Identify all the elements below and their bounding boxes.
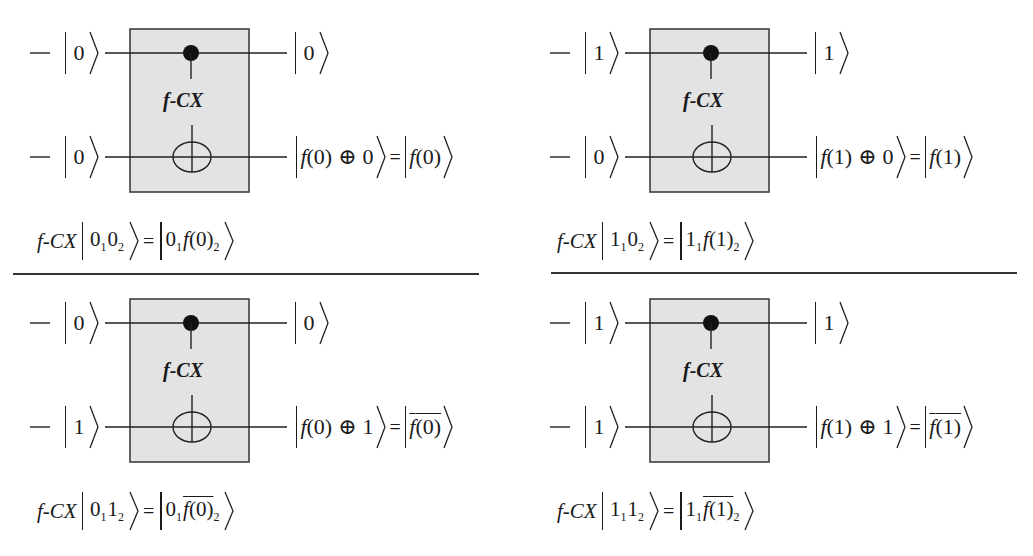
ket-angle-icon: [89, 405, 99, 449]
xor-icon: ⊕: [858, 144, 876, 169]
ket-angle-icon: [129, 491, 139, 531]
ket-bar: [405, 406, 406, 448]
input-bottom-value: 0: [593, 146, 604, 168]
ket-bar: [65, 302, 66, 344]
negated-value: f(1): [929, 414, 961, 439]
function-arg: (0): [307, 144, 333, 169]
gate-label: f-CX: [163, 359, 203, 382]
output-ket-top: 0: [295, 301, 329, 345]
ket-bar: [160, 222, 161, 260]
output-top-value: 1: [823, 42, 834, 64]
ket-angle-icon: [649, 491, 659, 531]
ket-angle-icon: [89, 301, 99, 345]
ket-bar: [602, 492, 603, 530]
equation-input-q2: 12: [107, 497, 125, 525]
ket-bar: [405, 136, 406, 178]
output-bottom-lhs: f(0)⊕1: [300, 416, 373, 438]
xor-operand: 0: [883, 144, 894, 169]
ket-bar: [295, 302, 296, 344]
equation-input-q1: 11: [610, 497, 628, 525]
output-ket-top: 0: [295, 31, 329, 75]
ket-bar: [585, 136, 586, 178]
ket-angle-icon: [89, 135, 99, 179]
xor-operand: 0: [363, 144, 374, 169]
ket-angle-icon: [896, 405, 906, 449]
ket-angle-icon: [609, 405, 619, 449]
ket-angle-icon: [649, 221, 659, 261]
output-ket-top: 1: [815, 301, 849, 345]
input-ket-top: 1: [585, 31, 619, 75]
equation-output-q1: 01: [166, 497, 184, 525]
input-ket-top: 0: [65, 301, 99, 345]
equation-output-q2: f(0)2: [183, 227, 220, 255]
input-top-value: 1: [593, 312, 604, 334]
xor-operand: 1: [363, 414, 374, 439]
equation-operator: f-CX: [557, 229, 597, 254]
input-top-value: 1: [593, 42, 604, 64]
ket-angle-icon: [896, 135, 906, 179]
gate-equation: f-CX 11 02 = 11 f(1)2: [557, 221, 754, 261]
ket-angle-icon: [443, 405, 453, 449]
xor-icon: ⊕: [338, 144, 356, 169]
equation-operator: f-CX: [37, 499, 77, 524]
negated-value: f(0): [409, 414, 441, 439]
ket-bar: [925, 406, 926, 448]
ket-bar: [815, 32, 816, 74]
ket-angle-icon: [744, 221, 754, 261]
equation-operator: f-CX: [37, 229, 77, 254]
output-bottom-rhs: f(1): [929, 146, 961, 168]
equals-sign: =: [663, 500, 674, 523]
ket-angle-icon: [224, 491, 234, 531]
equation-operator: f-CX: [557, 499, 597, 524]
gate-label: f-CX: [683, 359, 723, 382]
equation-output-q1: 11: [686, 497, 704, 525]
input-top-value: 0: [73, 42, 84, 64]
gate-label: f-CX: [163, 89, 203, 112]
output-ket-bottom: f(0)⊕1 = f(0): [296, 405, 453, 449]
output-ket-bottom: f(1)⊕0 = f(1): [816, 135, 973, 179]
circuit-panel: f-CX 1 0 1 f(1)⊕0 = f(1) f-CX 11 02 = 11…: [520, 0, 1033, 278]
ket-angle-icon: [609, 135, 619, 179]
ket-angle-icon: [443, 135, 453, 179]
ket-angle-icon: [376, 405, 386, 449]
equation-output-q2: f(1)2: [703, 227, 740, 255]
equation-input-q2: 12: [627, 497, 645, 525]
equals-sign: =: [910, 417, 921, 437]
ket-bar: [585, 32, 586, 74]
equals-sign: =: [663, 230, 674, 253]
output-top-value: 1: [823, 312, 834, 334]
output-bottom-rhs: f(1): [929, 416, 961, 438]
ket-angle-icon: [129, 221, 139, 261]
output-ket-bottom: f(0)⊕0 = f(0): [296, 135, 453, 179]
equation-input-q2: 02: [107, 227, 125, 255]
equation-output-q1: 11: [686, 227, 704, 255]
xor-icon: ⊕: [338, 414, 356, 439]
input-ket-bottom: 0: [585, 135, 619, 179]
ket-bar: [65, 406, 66, 448]
ket-angle-icon: [319, 31, 329, 75]
equals-sign: =: [143, 500, 154, 523]
xor-operand: 1: [883, 414, 894, 439]
function-arg: (1): [827, 144, 853, 169]
xor-icon: ⊕: [858, 414, 876, 439]
ket-angle-icon: [609, 301, 619, 345]
ket-bar: [65, 32, 66, 74]
ket-bar: [82, 222, 83, 260]
ket-bar: [295, 32, 296, 74]
ket-angle-icon: [744, 491, 754, 531]
ket-bar: [602, 222, 603, 260]
ket-bar: [65, 136, 66, 178]
input-ket-bottom: 1: [585, 405, 619, 449]
equals-sign: =: [390, 417, 401, 437]
ket-angle-icon: [376, 135, 386, 179]
ket-bar: [816, 136, 817, 178]
input-ket-top: 1: [585, 301, 619, 345]
gate-equation: f-CX 11 12 = 11 f(1)2: [557, 491, 754, 531]
ket-bar: [815, 302, 816, 344]
output-bottom-rhs: f(0): [409, 146, 441, 168]
input-ket-bottom: 1: [65, 405, 99, 449]
function-arg: (1): [827, 414, 853, 439]
ket-angle-icon: [963, 135, 973, 179]
input-top-value: 0: [73, 312, 84, 334]
circuit-panel: f-CX 0 0 0 f(0)⊕0 = f(0) f-CX 01 02 = 01…: [0, 0, 516, 278]
